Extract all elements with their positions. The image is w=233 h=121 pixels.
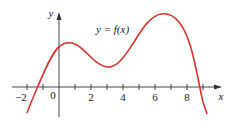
chart: −2 0 2 4 6 8 x y y = f(x) xyxy=(0,0,233,121)
y-axis-label: y xyxy=(48,7,54,19)
x-axis-label: x xyxy=(218,90,224,102)
curve-label: y = f(x) xyxy=(95,23,129,36)
tick-label: 0 xyxy=(50,89,56,101)
tick-label: 8 xyxy=(184,91,190,103)
tick-label: 4 xyxy=(120,91,126,103)
tick-label: 6 xyxy=(152,91,158,103)
y-axis-arrow-icon xyxy=(57,12,62,20)
tick-label: 2 xyxy=(88,91,94,103)
x-axis-arrow-icon xyxy=(214,85,222,90)
tick-label: −2 xyxy=(15,91,27,103)
